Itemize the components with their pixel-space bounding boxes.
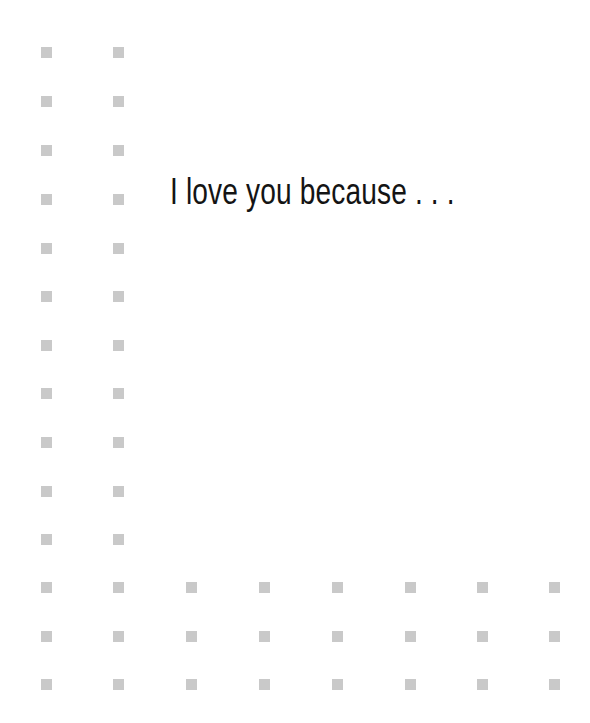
- square-dot-icon: [113, 437, 124, 448]
- square-dot-icon: [41, 679, 52, 690]
- square-dot-icon: [41, 47, 52, 58]
- square-dot-icon: [41, 582, 52, 593]
- square-dot-icon: [113, 679, 124, 690]
- square-dot-icon: [41, 340, 52, 351]
- square-dot-icon: [259, 679, 270, 690]
- square-dot-icon: [113, 582, 124, 593]
- square-dot-icon: [41, 291, 52, 302]
- square-dot-icon: [332, 679, 343, 690]
- square-dot-icon: [41, 631, 52, 642]
- square-dot-icon: [113, 194, 124, 205]
- square-dot-icon: [186, 631, 197, 642]
- square-dot-icon: [477, 631, 488, 642]
- square-dot-icon: [113, 340, 124, 351]
- headline-text: I love you because . . .: [170, 168, 455, 216]
- square-dot-icon: [259, 631, 270, 642]
- square-dot-icon: [41, 486, 52, 497]
- square-dot-icon: [113, 145, 124, 156]
- greeting-card-page: I love you because . . .: [0, 0, 590, 723]
- square-dot-icon: [113, 534, 124, 545]
- square-dot-icon: [259, 582, 270, 593]
- square-dot-icon: [113, 96, 124, 107]
- square-dot-icon: [549, 679, 560, 690]
- square-dot-icon: [41, 194, 52, 205]
- square-dot-icon: [186, 679, 197, 690]
- square-dot-icon: [549, 631, 560, 642]
- square-dot-icon: [113, 291, 124, 302]
- square-dot-icon: [41, 437, 52, 448]
- square-dot-icon: [113, 47, 124, 58]
- square-dot-icon: [41, 243, 52, 254]
- square-dot-icon: [405, 679, 416, 690]
- square-dot-icon: [113, 631, 124, 642]
- square-dot-icon: [113, 243, 124, 254]
- decorative-dot-grid: [0, 0, 590, 723]
- square-dot-icon: [113, 486, 124, 497]
- square-dot-icon: [477, 679, 488, 690]
- square-dot-icon: [113, 388, 124, 399]
- square-dot-icon: [186, 582, 197, 593]
- square-dot-icon: [477, 582, 488, 593]
- square-dot-icon: [41, 96, 52, 107]
- square-dot-icon: [549, 582, 560, 593]
- square-dot-icon: [405, 631, 416, 642]
- square-dot-icon: [41, 145, 52, 156]
- square-dot-icon: [332, 582, 343, 593]
- square-dot-icon: [405, 582, 416, 593]
- square-dot-icon: [41, 388, 52, 399]
- square-dot-icon: [332, 631, 343, 642]
- square-dot-icon: [41, 534, 52, 545]
